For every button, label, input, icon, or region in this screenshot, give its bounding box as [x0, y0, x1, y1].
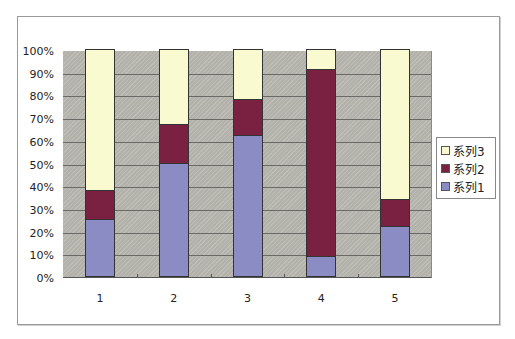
- legend-label: 系列2: [453, 160, 485, 177]
- legend-label: 系列3: [453, 142, 485, 159]
- bar-segment-series-1: [159, 163, 189, 278]
- x-tick-mark: [137, 274, 138, 278]
- y-tick-label: 60%: [0, 135, 54, 148]
- x-tick-label: 3: [233, 292, 263, 305]
- x-tick-label: 1: [85, 292, 115, 305]
- legend-label: 系列1: [453, 178, 485, 195]
- bar-category-5: [380, 50, 410, 277]
- y-tick-label: 80%: [0, 90, 54, 103]
- x-tick-label: 5: [380, 292, 410, 305]
- y-tick-label: 30%: [0, 203, 54, 216]
- y-tick-label: 10%: [0, 249, 54, 262]
- legend: 系列3系列2系列1: [436, 137, 496, 199]
- legend-swatch-icon: [441, 146, 450, 155]
- bar-segment-series-3: [159, 49, 189, 125]
- y-tick-label: 100%: [0, 45, 54, 58]
- legend-item-series-3: 系列3: [441, 141, 495, 159]
- y-tick-label: 70%: [0, 113, 54, 126]
- bar-segment-series-2: [233, 99, 263, 136]
- bar-category-2: [159, 50, 189, 277]
- x-tick-label: 2: [159, 292, 189, 305]
- bar-segment-series-2: [306, 69, 336, 256]
- y-tick-label: 90%: [0, 67, 54, 80]
- x-tick-mark: [284, 274, 285, 278]
- y-tick-label: 0%: [0, 272, 54, 285]
- legend-swatch-icon: [441, 182, 450, 191]
- x-tick-mark: [211, 274, 212, 278]
- bar-segment-series-3: [85, 49, 115, 191]
- bar-segment-series-1: [380, 226, 410, 277]
- plot-area: [63, 51, 432, 278]
- bar-segment-series-3: [380, 49, 410, 200]
- bar-segment-series-1: [233, 135, 263, 277]
- bar-category-3: [233, 50, 263, 277]
- x-tick-label: 4: [306, 292, 336, 305]
- y-tick-label: 20%: [0, 226, 54, 239]
- bar-segment-series-1: [306, 256, 336, 277]
- bar-segment-series-2: [85, 190, 115, 221]
- bar-segment-series-3: [233, 49, 263, 100]
- legend-swatch-icon: [441, 164, 450, 173]
- bar-segment-series-2: [159, 124, 189, 164]
- legend-item-series-2: 系列2: [441, 159, 495, 177]
- y-tick-label: 50%: [0, 158, 54, 171]
- bar-segment-series-1: [85, 219, 115, 277]
- bar-category-4: [306, 50, 336, 277]
- x-tick-mark: [358, 274, 359, 278]
- bar-segment-series-2: [380, 199, 410, 227]
- legend-item-series-1: 系列1: [441, 177, 495, 195]
- y-tick-label: 40%: [0, 181, 54, 194]
- y-axis: 0%10%20%30%40%50%60%70%80%90%100%: [0, 51, 54, 278]
- bar-category-1: [85, 50, 115, 277]
- bar-segment-series-3: [306, 49, 336, 70]
